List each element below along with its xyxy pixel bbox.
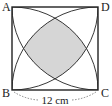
vertex-label-d: D bbox=[101, 0, 110, 14]
dimension-line-right bbox=[72, 92, 96, 100]
vertex-label-b: B bbox=[2, 86, 10, 100]
vertex-label-c: C bbox=[101, 86, 109, 100]
vertex-label-a: A bbox=[2, 0, 11, 14]
shaded-region bbox=[24, 18, 87, 79]
dimension-line-left bbox=[14, 92, 38, 100]
side-length-label: 12 cm bbox=[41, 94, 69, 106]
geometry-diagram: A D B C 12 cm bbox=[0, 0, 112, 106]
